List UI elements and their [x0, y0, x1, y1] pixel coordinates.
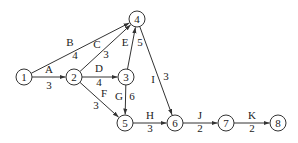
node-4: 4	[129, 11, 145, 27]
duration-label: 3	[46, 79, 52, 91]
edge-arrow	[125, 85, 126, 115]
activity-label: K	[248, 109, 256, 121]
duration-label: 3	[147, 122, 153, 134]
duration-label: 6	[129, 90, 135, 102]
node-6: 6	[167, 115, 183, 131]
activity-label: D	[95, 62, 103, 74]
node-label: 7	[223, 117, 229, 129]
duration-label: 2	[197, 122, 203, 134]
activity-label: I	[151, 73, 155, 85]
duration-label: 5	[137, 36, 143, 48]
node-label: 6	[172, 117, 178, 129]
activity-label: F	[101, 87, 107, 99]
node-label: 3	[123, 71, 129, 83]
edge-g	[125, 85, 126, 115]
node-label: 4	[134, 13, 140, 25]
edge-arrow	[127, 27, 135, 69]
node-label: 8	[275, 117, 281, 129]
duration-label: 3	[163, 70, 169, 82]
node-label: 5	[122, 117, 128, 129]
node-1: 1	[16, 69, 32, 85]
node-3: 3	[118, 69, 134, 85]
activity-label: B	[66, 36, 73, 48]
activity-network-diagram: 12345678 A3B4C3D4E5F3G6H3I3J2K2	[0, 0, 298, 143]
node-2: 2	[66, 69, 82, 85]
duration-label: 3	[103, 48, 109, 60]
duration-label: 4	[72, 49, 78, 61]
node-5: 5	[117, 115, 133, 131]
activity-label: H	[146, 109, 154, 121]
duration-label: 2	[249, 122, 255, 134]
activity-label: E	[122, 36, 129, 48]
activity-label: J	[198, 109, 203, 121]
activity-label: A	[45, 63, 53, 75]
node-label: 1	[21, 71, 27, 83]
duration-label: 3	[93, 99, 99, 111]
node-label: 2	[71, 71, 77, 83]
edge-e	[127, 27, 135, 69]
activity-label: C	[93, 38, 100, 50]
node-7: 7	[218, 115, 234, 131]
node-8: 8	[270, 115, 286, 131]
activity-label: G	[115, 90, 123, 102]
